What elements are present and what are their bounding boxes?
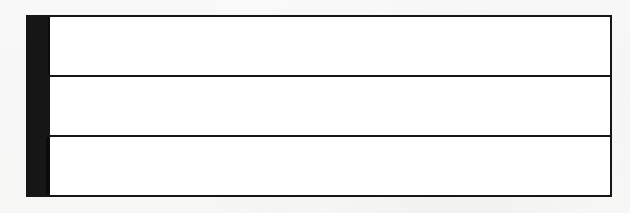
- grid-cell-shaded: [48, 17, 50, 75]
- grid-row: [28, 77, 610, 137]
- grid-cell-shaded: [48, 137, 50, 195]
- grid-row: [28, 17, 610, 77]
- grid-row: [28, 137, 610, 195]
- grid-cell-unshaded: [48, 77, 50, 135]
- shaded-cell-grid: [26, 15, 612, 197]
